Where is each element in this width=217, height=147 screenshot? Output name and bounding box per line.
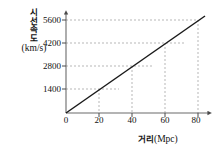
chart-figure: 시 선 속 도 (km/s) 5600 4200 2800 1400 0 20 …: [0, 0, 217, 147]
x-axis-ticks: [99, 113, 198, 117]
data-line-hubble: [66, 16, 205, 113]
vertical-gridlines: [99, 20, 198, 113]
plot-area: [0, 0, 217, 147]
y-axis-ticks: [62, 20, 66, 89]
